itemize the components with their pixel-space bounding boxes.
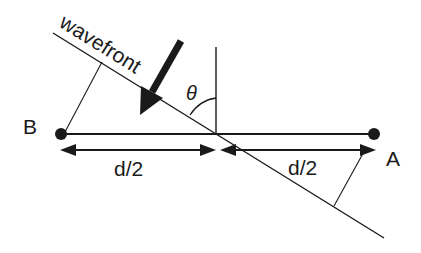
- point-a-label: A: [386, 147, 400, 170]
- propagation-arrow-icon: [140, 41, 181, 115]
- half-baseline-right-label: d/2: [288, 156, 317, 179]
- half-baseline-left-label: d/2: [114, 157, 143, 180]
- perpendicular-a-line: [334, 148, 366, 206]
- antenna-a-dot: [368, 128, 380, 140]
- perpendicular-b-line: [65, 62, 102, 132]
- interferometer-diagram: wavefront θ B A d/2 d/2: [0, 0, 421, 253]
- theta-label: θ: [186, 82, 197, 104]
- wavefront-line: [53, 33, 384, 238]
- antenna-b-dot: [55, 128, 67, 140]
- dimension-left-arrow: [60, 144, 216, 156]
- dimension-right-arrow: [220, 144, 376, 156]
- point-b-label: B: [23, 115, 37, 138]
